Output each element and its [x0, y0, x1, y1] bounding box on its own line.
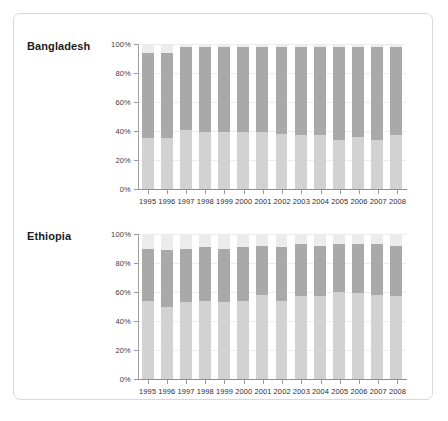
x-tick-slot [234, 380, 253, 385]
bar-segment-lower-segment [390, 296, 402, 379]
bar-segment-upper-segment [256, 234, 268, 246]
bar-segment-middle-segment [371, 244, 383, 295]
bar-slot [176, 44, 195, 189]
stacked-bar[interactable] [142, 44, 154, 189]
x-tick-slot [157, 380, 176, 385]
y-tick-label: 60% [115, 98, 131, 107]
bar-segment-lower-segment [276, 301, 288, 379]
stacked-bar[interactable] [256, 44, 268, 189]
stacked-bar[interactable] [161, 234, 173, 379]
stacked-bar[interactable] [276, 234, 288, 379]
bar-slot [291, 234, 310, 379]
x-tick-label: 2001 [253, 387, 272, 396]
bar-segment-lower-segment [276, 134, 288, 189]
x-axis-labels: 1995199619971998199920002001200220032004… [138, 387, 407, 396]
bar-slot [195, 234, 214, 379]
x-tick-label: 2001 [253, 197, 272, 206]
x-tick-mark [224, 380, 225, 384]
stacked-bar[interactable] [390, 234, 402, 379]
bar-slot [368, 234, 387, 379]
stacked-bar[interactable] [371, 234, 383, 379]
bar-segment-middle-segment [237, 47, 249, 133]
bar-group [138, 234, 406, 379]
stacked-bar[interactable] [333, 44, 345, 189]
bar-slot [195, 44, 214, 189]
bar-slot [253, 44, 272, 189]
x-tick-slot [273, 190, 292, 195]
stacked-bar[interactable] [256, 234, 268, 379]
x-tick-slot [388, 380, 407, 385]
plot-area-bangladesh: 100%80%60%40%20%0% [138, 44, 406, 189]
bar-segment-lower-segment [161, 138, 173, 189]
stacked-bar[interactable] [295, 44, 307, 189]
x-tick-mark [378, 190, 379, 194]
x-tick-slot [176, 380, 195, 385]
bar-segment-lower-segment [180, 130, 192, 189]
stacked-bar[interactable] [180, 234, 192, 379]
bar-segment-upper-segment [276, 234, 288, 247]
y-tick-label: 20% [115, 346, 131, 355]
bar-segment-upper-segment [371, 234, 383, 244]
stacked-bar[interactable] [314, 234, 326, 379]
x-tick-label: 2007 [369, 197, 388, 206]
x-tick-label: 2004 [311, 387, 330, 396]
x-tick-marks [138, 380, 407, 385]
x-tick-slot [349, 380, 368, 385]
x-tick-label: 2006 [349, 387, 368, 396]
stacked-bar[interactable] [371, 44, 383, 189]
stacked-bar[interactable] [276, 44, 288, 189]
stacked-bar[interactable] [218, 234, 230, 379]
bar-slot [387, 44, 406, 189]
y-axis-line [138, 234, 139, 380]
bar-segment-middle-segment [161, 250, 173, 307]
stacked-bar[interactable] [218, 44, 230, 189]
x-tick-mark [321, 380, 322, 384]
stacked-bar[interactable] [352, 44, 364, 189]
stacked-bar[interactable] [295, 234, 307, 379]
x-tick-label: 1996 [157, 197, 176, 206]
x-tick-mark [167, 380, 168, 384]
stacked-bar[interactable] [199, 234, 211, 379]
stacked-bar[interactable] [333, 234, 345, 379]
bar-slot [234, 234, 253, 379]
y-tick-label: 80% [115, 259, 131, 268]
x-tick-mark [244, 380, 245, 384]
x-tick-label: 2000 [234, 387, 253, 396]
bar-segment-lower-segment [390, 135, 402, 189]
bar-segment-middle-segment [256, 246, 268, 295]
bar-segment-middle-segment [371, 47, 383, 140]
x-tick-label: 1999 [215, 387, 234, 396]
bar-segment-middle-segment [218, 47, 230, 133]
x-tick-mark [359, 190, 360, 194]
plot-area-ethiopia: 100%80%60%40%20%0% [138, 234, 406, 379]
figure-frame: Bangladesh 100%80%60%40%20%0% 1995199619… [13, 13, 433, 400]
bar-segment-middle-segment [276, 247, 288, 301]
bar-group [138, 44, 406, 189]
stacked-bar[interactable] [199, 44, 211, 189]
y-tick-label: 40% [115, 317, 131, 326]
stacked-bar[interactable] [142, 234, 154, 379]
bar-segment-middle-segment [352, 47, 364, 137]
bar-segment-lower-segment [333, 292, 345, 379]
bar-segment-middle-segment [314, 47, 326, 135]
bar-segment-lower-segment [142, 301, 154, 379]
x-tick-mark [359, 380, 360, 384]
stacked-bar[interactable] [390, 44, 402, 189]
x-tick-label: 1995 [138, 387, 157, 396]
bar-segment-middle-segment [199, 47, 211, 133]
x-tick-slot [330, 380, 349, 385]
x-tick-slot [176, 190, 195, 195]
stacked-bar[interactable] [352, 234, 364, 379]
stacked-bar[interactable] [314, 44, 326, 189]
bar-segment-middle-segment [352, 244, 364, 293]
y-axis-line [138, 44, 139, 190]
x-tick-slot [311, 190, 330, 195]
bar-segment-lower-segment [371, 295, 383, 379]
stacked-bar[interactable] [237, 234, 249, 379]
stacked-bar[interactable] [180, 44, 192, 189]
stacked-bar[interactable] [161, 44, 173, 189]
x-tick-mark [397, 190, 398, 194]
panel-title-ethiopia: Ethiopia [27, 230, 71, 242]
bar-slot [157, 234, 176, 379]
stacked-bar[interactable] [237, 44, 249, 189]
